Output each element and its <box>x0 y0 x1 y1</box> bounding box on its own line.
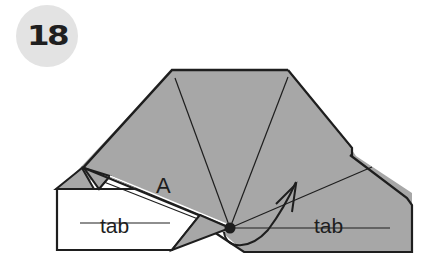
flap-label: A <box>156 173 171 198</box>
right-tab-label: tab <box>314 214 343 237</box>
fold-diagram: A tab tab <box>0 0 434 269</box>
left-tab-label: tab <box>100 214 129 237</box>
pivot-point <box>225 223 236 234</box>
